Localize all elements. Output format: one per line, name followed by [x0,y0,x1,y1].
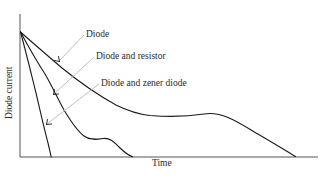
y-axis-title: Diode current [5,55,15,131]
leader-line-diode [59,35,84,61]
series-label-diode: Diode [86,30,109,40]
x-axis-title: Time [152,159,172,169]
curve-diode-and-zener-diode [21,32,52,157]
series-label-diode-and-zener-diode: Diode and zener diode [101,79,187,89]
chart-plot-area [0,0,327,179]
series-label-diode-and-resistor: Diode and resistor [96,52,166,62]
leader-line-diode-and-resistor [54,57,94,94]
diode-current-vs-time-chart: Diode Diode and resistor Diode and zener… [0,0,327,179]
